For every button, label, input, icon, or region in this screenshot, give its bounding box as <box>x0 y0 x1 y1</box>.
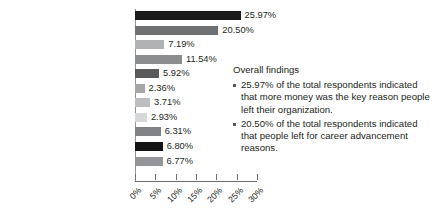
bullet-square-icon <box>233 123 236 126</box>
bar-value-label: 20.50% <box>222 25 254 36</box>
bullet-square-icon <box>233 84 236 87</box>
bar <box>135 40 164 49</box>
bar <box>135 26 218 35</box>
bar-value-label: 2.36% <box>149 83 175 94</box>
axis-tick <box>237 174 238 180</box>
bar-value-label: 3.71% <box>154 97 180 108</box>
axis-tick <box>196 174 197 180</box>
findings-panel: Overall findings 25.97% of the total res… <box>233 64 435 157</box>
axis-tick <box>216 174 217 180</box>
bar-value-label: 6.80% <box>167 141 193 152</box>
y-axis-line <box>135 9 136 181</box>
bar <box>135 157 163 166</box>
axis-tick-label: 20% <box>200 186 225 211</box>
axis-tick-label: 15% <box>180 186 205 211</box>
axis-tick <box>135 174 136 180</box>
findings-title: Overall findings <box>233 64 435 76</box>
axis-tick-label: 0% <box>119 186 144 211</box>
axis-tick-label: 10% <box>159 186 184 211</box>
bar <box>135 69 159 78</box>
bar-value-label: 6.77% <box>167 156 193 167</box>
bar <box>135 113 147 122</box>
bar <box>135 55 182 64</box>
bar-chart: More moneyCareer advancementCultural fit… <box>0 0 268 223</box>
bar-value-label: 5.92% <box>163 68 189 79</box>
finding-text: 25.97% of the total respondents indicate… <box>241 79 430 115</box>
axis-tick <box>176 174 177 180</box>
bar-value-label: 2.93% <box>151 112 177 123</box>
axis-tick <box>257 174 258 180</box>
axis-tick-label: 5% <box>139 186 164 211</box>
bar-value-label: 6.31% <box>165 126 191 137</box>
axis-tick-label: 30% <box>241 186 266 211</box>
bar-value-label: 25.97% <box>245 10 277 21</box>
bar <box>135 127 161 136</box>
axis-tick-label: 25% <box>220 186 245 211</box>
bar <box>135 98 150 107</box>
finding-item: 20.50% of the total respondents indicate… <box>233 118 435 155</box>
bar-value-label: 11.54% <box>186 54 217 65</box>
findings-list: 25.97% of the total respondents indicate… <box>233 79 435 155</box>
bar <box>135 84 145 93</box>
finding-text: 20.50% of the total respondents indicate… <box>241 118 418 154</box>
axis-tick <box>155 174 156 180</box>
finding-item: 25.97% of the total respondents indicate… <box>233 79 435 116</box>
bar-value-label: 7.19% <box>168 39 194 50</box>
bar <box>135 142 163 151</box>
bar <box>135 11 241 20</box>
x-axis-line <box>135 181 257 182</box>
